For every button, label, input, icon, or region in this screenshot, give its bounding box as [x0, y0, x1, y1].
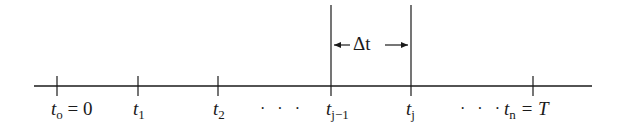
ellipsis-1: · · ·	[260, 100, 304, 118]
ellipsis-2: · · ·	[460, 100, 504, 118]
delta-t-label: Δt	[353, 33, 371, 55]
label-tj: tj	[406, 98, 415, 123]
delta-t-arrow	[334, 42, 408, 48]
label-tj-minus-1: tj−1	[326, 98, 349, 123]
label-t1: t1	[133, 98, 145, 123]
label-t2: t2	[213, 98, 225, 123]
label-t0: to = 0	[51, 98, 93, 123]
label-tn: tn = T	[504, 98, 549, 123]
